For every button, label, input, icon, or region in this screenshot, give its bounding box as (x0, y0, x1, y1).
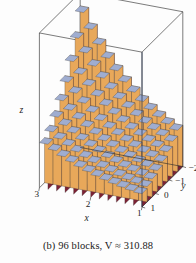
frame-top-right (39, 0, 80, 33)
frame-top-left (142, 12, 183, 52)
block-side-face (45, 138, 54, 185)
y-tick-mark (183, 167, 186, 168)
y-tick-mark (169, 180, 172, 181)
y-tick-mark (156, 194, 159, 195)
riemann-sum-3d-plot: 321x−2−101yz (0, 0, 196, 240)
y-tick-label-0: −2 (189, 163, 196, 173)
figure-caption: (b) 96 blocks, V ≈ 310.88 (0, 240, 196, 251)
y-tick-mark (142, 207, 145, 208)
plot-canvas: 321x−2−101yz (0, 0, 196, 240)
x-tick-label-1: 1 (137, 208, 142, 218)
x-tick-label-3: 3 (35, 189, 40, 199)
caption-text: (b) 96 blocks, V ≈ 310.88 (43, 240, 153, 251)
x-axis-label: x (84, 212, 90, 223)
z-axis-label: z (19, 104, 24, 115)
y-axis-label: y (180, 180, 186, 191)
y-tick-label-3: 1 (150, 203, 155, 213)
x-tick-label-2: 2 (86, 199, 91, 209)
frame-top-front (80, 0, 183, 12)
y-tick-label-2: 0 (164, 190, 169, 200)
